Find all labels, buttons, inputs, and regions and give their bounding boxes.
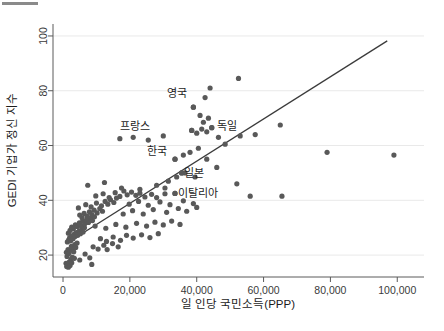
image-edge-artifact — [2, 2, 38, 5]
data-point — [196, 146, 201, 151]
data-point — [204, 129, 209, 134]
data-point — [72, 256, 77, 261]
data-point — [102, 180, 107, 185]
data-point — [87, 255, 92, 260]
x-tick-label-60000: 60,000 — [248, 284, 280, 296]
data-point — [113, 190, 118, 195]
data-point — [151, 207, 156, 212]
data-point — [123, 225, 128, 230]
data-point — [177, 222, 182, 227]
data-point — [201, 120, 206, 125]
y-tick-label-20: 20 — [37, 249, 49, 261]
data-point — [248, 194, 253, 199]
data-point — [154, 195, 159, 200]
data-point — [166, 179, 171, 184]
data-point — [152, 220, 157, 225]
data-point — [216, 135, 221, 140]
data-point — [194, 131, 199, 136]
data-point — [204, 157, 209, 162]
data-point — [69, 260, 74, 265]
labeled-data-point-프랑스 — [189, 128, 194, 133]
data-point — [84, 214, 89, 219]
data-point — [278, 122, 283, 127]
data-point — [89, 204, 94, 209]
x-tick-label-40000: 40,000 — [181, 284, 213, 296]
data-point — [169, 219, 174, 224]
point-label-독일: 독일 — [217, 119, 237, 132]
data-point — [134, 221, 139, 226]
data-point — [146, 203, 151, 208]
x-axis-title: 일 인당 국민소득(PPP) — [181, 297, 295, 310]
x-tick-label-20000: 20,000 — [114, 284, 146, 296]
data-point — [324, 150, 329, 155]
scatter-plot: 020,00040,00060,00080,000100,000 2040608… — [0, 0, 444, 331]
data-point — [82, 251, 87, 256]
data-point — [127, 202, 132, 207]
data-point — [76, 205, 81, 210]
y-tick-label-80: 80 — [37, 85, 49, 97]
data-point — [187, 150, 192, 155]
data-point — [103, 226, 108, 231]
data-point — [161, 133, 166, 138]
data-point — [137, 187, 142, 192]
data-point — [131, 236, 136, 241]
data-point — [74, 240, 79, 245]
data-point — [234, 181, 239, 186]
data-point — [89, 262, 94, 267]
data-point — [181, 153, 186, 158]
point-label-이탈리아: 이탈리아 — [178, 187, 218, 199]
data-point — [117, 194, 122, 199]
data-point — [142, 194, 147, 199]
data-point — [131, 135, 136, 140]
data-point — [111, 200, 116, 205]
data-point — [73, 245, 78, 250]
data-point — [157, 199, 162, 204]
data-point — [223, 142, 228, 147]
labeled-data-point-한국 — [172, 157, 177, 162]
data-point — [111, 234, 116, 239]
data-point — [125, 192, 130, 197]
point-label-한국: 한국 — [147, 145, 167, 157]
point-label-프랑스: 프랑스 — [120, 120, 150, 132]
data-point — [77, 257, 82, 262]
data-point — [147, 235, 152, 240]
data-point — [118, 238, 123, 243]
y-axis-title: GEDI 기업가 정신 지수 — [6, 93, 18, 208]
data-point — [391, 153, 396, 158]
data-point — [116, 244, 121, 249]
data-point — [164, 210, 169, 215]
data-point — [91, 244, 96, 249]
data-point — [105, 202, 110, 207]
data-point — [139, 232, 144, 237]
data-point — [197, 113, 202, 118]
data-point — [96, 246, 101, 251]
data-point — [279, 194, 284, 199]
data-point — [124, 233, 129, 238]
data-point — [253, 132, 258, 137]
data-point — [117, 136, 122, 141]
chart-container: 020,00040,00060,00080,000100,000 2040608… — [0, 0, 444, 331]
data-point — [105, 247, 110, 252]
data-point — [83, 202, 88, 207]
y-tick-label-40: 40 — [37, 194, 49, 206]
data-point — [146, 137, 151, 142]
data-point — [121, 211, 126, 216]
x-tick-label-0: 0 — [60, 284, 66, 296]
data-point — [85, 183, 90, 188]
point-label-영국: 영국 — [167, 87, 187, 99]
data-point — [161, 222, 166, 227]
data-point — [101, 191, 106, 196]
plot-background — [0, 0, 444, 331]
data-point — [136, 199, 141, 204]
data-point — [130, 208, 135, 213]
data-point — [214, 165, 219, 170]
data-point — [141, 211, 146, 216]
data-point — [104, 239, 109, 244]
data-point — [154, 183, 159, 188]
data-point — [93, 223, 98, 228]
data-point — [94, 200, 99, 205]
data-point — [95, 210, 100, 215]
labeled-data-point-이탈리아 — [172, 191, 177, 196]
data-point — [119, 185, 124, 190]
y-tick-label-60: 60 — [37, 140, 49, 152]
